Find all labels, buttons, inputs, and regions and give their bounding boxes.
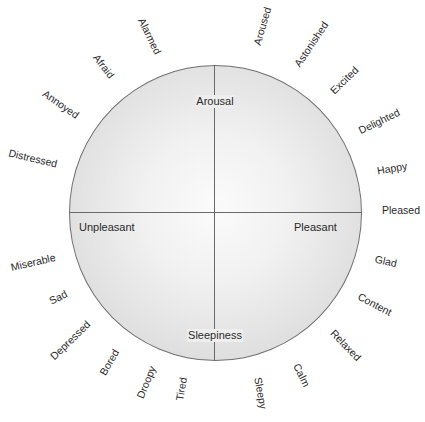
axis-label-unpleasant: Unpleasant [79, 221, 135, 234]
emotion-label-pleased: Pleased [382, 204, 420, 216]
emotion-label-alarmed: Alarmed [136, 16, 164, 56]
emotion-label-content: Content [356, 290, 394, 318]
emotion-label-happy: Happy [376, 159, 408, 176]
emotion-label-miserable: Miserable [9, 251, 56, 273]
affect-circumplex-diagram: Arousal Sleepiness Unpleasant Pleasant A… [0, 0, 425, 422]
emotion-label-bored: Bored [97, 347, 121, 377]
vertical-axis-line [214, 65, 215, 361]
axis-label-sleepiness: Sleepiness [187, 329, 243, 342]
emotion-label-annoyed: Annoyed [41, 87, 82, 121]
axis-label-arousal: Arousal [195, 95, 234, 108]
emotion-label-astonished: Astonished [291, 19, 330, 69]
axis-label-pleasant: Pleasant [294, 221, 337, 234]
emotion-label-glad: Glad [374, 253, 398, 269]
emotion-label-depressed: Depressed [48, 318, 93, 362]
emotion-label-distressed: Distressed [7, 147, 58, 170]
emotion-label-delighted: Delighted [356, 106, 401, 136]
affect-circle [69, 65, 362, 361]
emotion-label-droopy: Droopy [134, 364, 158, 400]
emotion-label-afraid: Afraid [91, 51, 117, 80]
horizontal-axis-line [69, 212, 362, 213]
emotion-label-excited: Excited [327, 64, 360, 97]
emotion-label-tired: Tired [173, 376, 189, 401]
emotion-label-sad: Sad [47, 287, 69, 306]
emotion-label-relaxed: Relaxed [328, 327, 363, 363]
emotion-label-sleepy: Sleepy [252, 376, 269, 410]
emotion-label-aroused: Aroused [251, 6, 273, 47]
emotion-label-calm: Calm [291, 361, 313, 388]
